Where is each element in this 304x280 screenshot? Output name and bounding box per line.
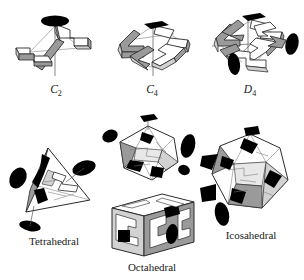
- two-fold-axis-lens-lower-right-icon: [177, 163, 192, 177]
- cuboct-facet-center: [134, 148, 162, 162]
- two-fold-axis-lens-icon: [41, 16, 69, 27]
- panel-octahedral-cuboctahedron: [100, 114, 204, 190]
- caption-c2-subscript: 2: [58, 89, 62, 98]
- caption-icosahedral: Icosahedral: [200, 230, 302, 241]
- icosa-facet-center: [234, 162, 266, 186]
- panel-octahedral-cube: [106, 190, 202, 260]
- cube-drawing: [106, 190, 202, 260]
- two-fold-axis-lens-right-icon: [283, 32, 300, 56]
- two-fold-axis-lens-left-icon: [100, 127, 120, 145]
- five-fold-axis-marker-left-icon: [200, 184, 216, 202]
- caption-c4-subscript: 4: [154, 89, 158, 98]
- cuboctahedron-drawing: [100, 114, 204, 190]
- c2-drawing: [8, 4, 104, 80]
- panel-c4: [104, 4, 200, 80]
- caption-octahedral: Octahedral: [100, 262, 204, 273]
- two-fold-axis-lens-right-icon: [178, 133, 197, 160]
- caption-d4-text: D: [244, 83, 252, 95]
- four-fold-axis-square-icon: [242, 13, 266, 21]
- icosahedral-drawing: [200, 126, 302, 226]
- caption-c4-text: C: [146, 83, 154, 95]
- caption-c2-text: C: [50, 83, 58, 95]
- four-fold-axis-square-top-icon: [140, 114, 158, 122]
- c4-subunit-se: [152, 44, 186, 70]
- panel-c2: [8, 4, 104, 80]
- panel-d4: [198, 2, 302, 80]
- five-fold-axis-marker-bottom-icon: [213, 201, 232, 227]
- five-fold-axis-marker-top-icon: [244, 126, 260, 136]
- c4-subunit-w-body: [120, 30, 144, 52]
- symmetry-figure: C2: [0, 0, 304, 280]
- d4-drawing: [198, 2, 302, 80]
- caption-tetrahedral: Tetrahedral: [4, 236, 104, 247]
- panel-tetrahedral: [4, 130, 104, 234]
- three-fold-axis-marker-left-icon: [6, 165, 30, 192]
- caption-c4: C4: [104, 84, 200, 98]
- d4-subunit-u4: [246, 38, 278, 60]
- tetrahedral-drawing: [4, 130, 104, 234]
- four-fold-axis-square-front-icon: [118, 230, 130, 242]
- caption-c2: C2: [8, 84, 104, 98]
- c2-subunit-lower-face: [19, 54, 34, 60]
- c2-subunit-upper-face: [74, 46, 91, 49]
- caption-d4: D4: [198, 84, 302, 98]
- panel-icosahedral: [200, 126, 302, 226]
- cuboct-subunit-dark-2: [150, 166, 164, 178]
- caption-d4-subscript: 4: [252, 89, 256, 98]
- c4-drawing: [104, 4, 200, 80]
